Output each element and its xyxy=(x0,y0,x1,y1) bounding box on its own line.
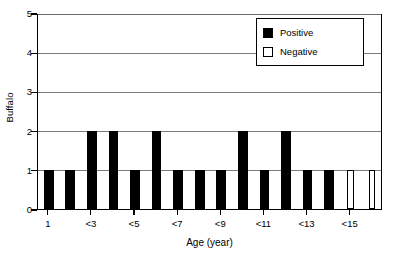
y-axis-title: Buffalo xyxy=(0,0,18,215)
bar-positive-10 xyxy=(238,131,248,209)
bar-positive-2 xyxy=(65,170,75,209)
bar-positive-8 xyxy=(195,170,205,209)
bar-positive-14 xyxy=(324,170,334,209)
y-tick-label-0: 0 xyxy=(18,205,32,215)
x-tick-mark-<7 xyxy=(177,210,178,215)
x-tick-mark-1 xyxy=(47,210,48,215)
x-tick-mark-<3 xyxy=(90,210,91,215)
bar-negative-16 xyxy=(369,170,375,209)
x-tick-label-<5: <5 xyxy=(129,218,140,230)
x-tick-mark-<5 xyxy=(133,210,134,215)
x-tick-label-<9: <9 xyxy=(215,218,226,230)
y-tick-label-2: 2 xyxy=(18,127,32,137)
legend-swatch-positive-icon xyxy=(263,28,273,38)
x-tick-mark-<11 xyxy=(263,210,264,215)
bar-positive-4 xyxy=(109,131,119,209)
y-tick-label-1: 1 xyxy=(18,166,32,176)
x-tick-mark-<9 xyxy=(220,210,221,215)
chart-legend: PositiveNegative xyxy=(256,18,364,66)
bar-chart: Buffalo 012345 1<3<5<7<9<11<13<15 Age (y… xyxy=(0,0,394,269)
y-axis-title-label: Buffalo xyxy=(4,92,15,122)
x-axis-tick-marks xyxy=(37,210,382,216)
bar-positive-<9 xyxy=(216,170,226,209)
legend-item-positive: Positive xyxy=(263,23,357,42)
x-tick-label-<3: <3 xyxy=(85,218,96,230)
x-tick-label-<13: <13 xyxy=(298,218,314,230)
y-tick-label-5: 5 xyxy=(18,9,32,19)
x-tick-label-<15: <15 xyxy=(342,218,358,230)
x-tick-label-1: 1 xyxy=(45,218,50,230)
y-tick-label-3: 3 xyxy=(18,87,32,97)
bar-negative-<15 xyxy=(347,170,353,209)
legend-label-positive: Positive xyxy=(280,27,313,38)
y-tick-label-4: 4 xyxy=(18,48,32,58)
bar-positive-<11 xyxy=(260,170,270,209)
y-axis-tick-labels: 012345 xyxy=(18,14,32,210)
x-axis-tick-labels: 1<3<5<7<9<11<13<15 xyxy=(37,218,382,234)
x-tick-mark-<15 xyxy=(349,210,350,215)
legend-swatch-negative-icon xyxy=(263,47,273,57)
bar-positive-1 xyxy=(44,170,54,209)
x-axis-title: Age (year) xyxy=(37,237,382,248)
bar-positive-6 xyxy=(152,131,162,209)
x-tick-mark-<13 xyxy=(306,210,307,215)
bar-positive-<3 xyxy=(87,131,97,209)
bar-positive-<5 xyxy=(130,170,140,209)
bar-positive-<13 xyxy=(303,170,313,209)
x-axis-title-label: Age (year) xyxy=(186,237,233,248)
bar-positive-12 xyxy=(281,131,291,209)
x-tick-label-<11: <11 xyxy=(256,218,271,230)
x-tick-label-<7: <7 xyxy=(172,218,183,230)
bar-positive-<7 xyxy=(173,170,183,209)
legend-label-negative: Negative xyxy=(280,46,318,57)
legend-item-negative: Negative xyxy=(263,42,357,61)
